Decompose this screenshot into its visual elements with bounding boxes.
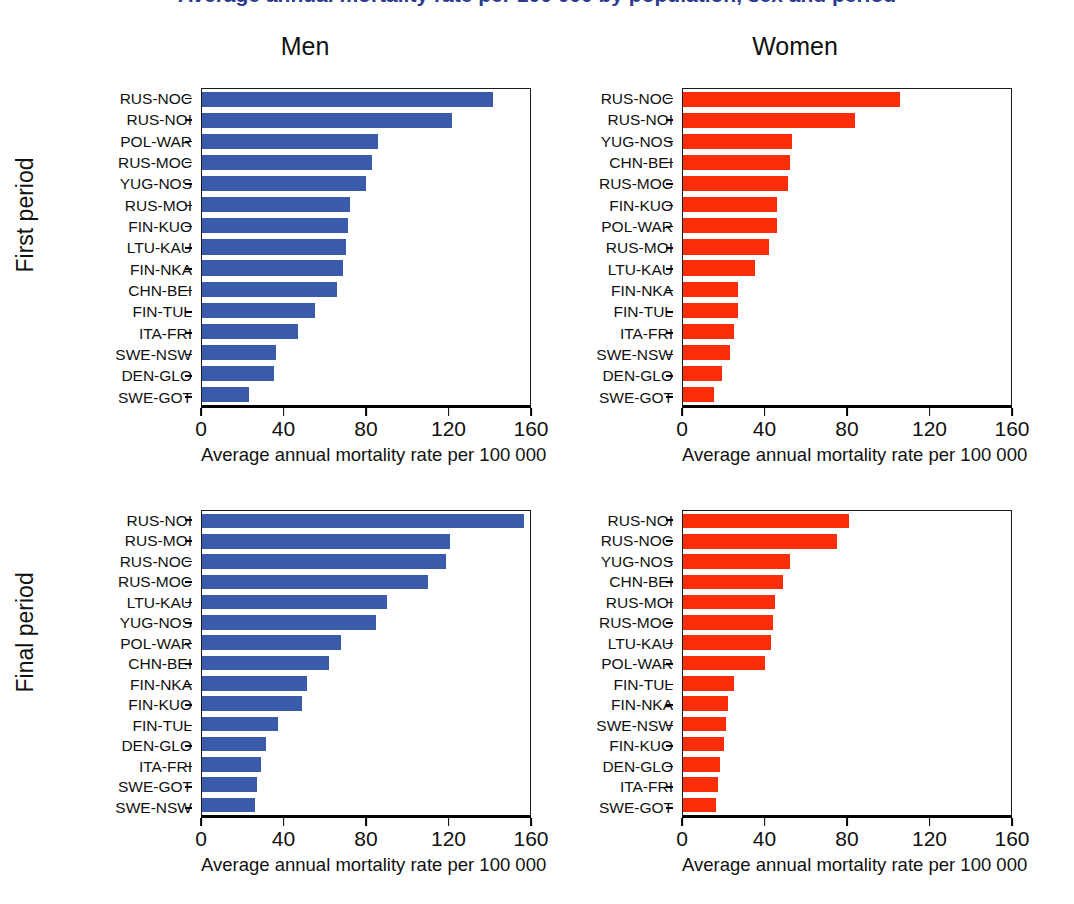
bar-row — [202, 194, 530, 215]
bars-men-first — [202, 89, 530, 405]
bar — [683, 239, 769, 254]
bar — [202, 134, 378, 149]
bar — [683, 218, 777, 233]
bar-row — [683, 363, 1011, 384]
bar — [202, 635, 341, 650]
bar-row — [683, 215, 1011, 236]
category-label: FIN-TUL — [115, 715, 192, 736]
x-axis-tick — [530, 408, 532, 416]
x-axis-tick-label: 120 — [912, 827, 947, 851]
bar — [202, 155, 372, 170]
bar-row — [202, 612, 530, 632]
category-label: LTU-KAU — [596, 259, 673, 280]
bars-men-final — [202, 511, 530, 815]
bar — [202, 324, 298, 339]
x-axis-tick-label: 0 — [195, 417, 207, 441]
plot-area-men-first: RUS-NOCRUS-NOIPOL-WARRUS-MOCYUG-NOSRUS-M… — [201, 88, 531, 408]
category-label: RUS-NOI — [596, 109, 673, 130]
bar — [202, 113, 452, 128]
bar-row — [202, 714, 530, 734]
x-axis-tick-label: 40 — [753, 827, 776, 851]
x-axis-tick-label: 80 — [835, 417, 858, 441]
x-axis-tick-label: 40 — [272, 417, 295, 441]
category-label: LTU-KAU — [115, 237, 192, 258]
bar-row — [202, 795, 530, 815]
bar — [683, 113, 855, 128]
x-axis-tick-label: 80 — [354, 827, 377, 851]
row-label-first-period: First period — [10, 244, 40, 271]
bar — [683, 303, 738, 318]
bar-row — [683, 592, 1011, 612]
category-label: LTU-KAU — [115, 592, 192, 613]
category-label: SWE-GOT — [596, 387, 673, 408]
bar-row — [202, 89, 530, 110]
bar — [202, 366, 274, 381]
bar — [202, 656, 329, 671]
bar — [202, 534, 450, 549]
bar — [683, 134, 792, 149]
category-label: FIN-NKA — [115, 674, 192, 695]
bar-row — [202, 693, 530, 713]
bar — [683, 737, 724, 752]
x-axis-tick-label: 40 — [272, 827, 295, 851]
bar — [683, 345, 730, 360]
bar — [683, 777, 718, 792]
category-label: DEN-GLO — [596, 365, 673, 386]
bar — [683, 282, 738, 297]
category-label: RUS-MOC — [115, 572, 192, 593]
x-axis-title-women-final: Average annual mortality rate per 100 00… — [682, 854, 1012, 876]
bar-row — [683, 714, 1011, 734]
x-axis-tick — [929, 408, 931, 416]
bar-row — [202, 572, 530, 592]
category-label: ITA-FRI — [115, 756, 192, 777]
x-axis-tick-label: 160 — [513, 827, 548, 851]
bar — [202, 676, 307, 691]
figure-panel-grid: First period Final period Men RUS-NOCRUS… — [0, 14, 1074, 904]
x-axis-tick — [365, 818, 367, 826]
x-axis-tick — [764, 408, 766, 416]
bar — [683, 798, 716, 813]
bar-row — [202, 653, 530, 673]
category-label: RUS-MOI — [115, 195, 192, 216]
category-label: SWE-NSW — [596, 715, 673, 736]
bar — [683, 324, 734, 339]
category-label: CHN-BEI — [596, 152, 673, 173]
category-label: POL-WAR — [596, 654, 673, 675]
bar — [202, 554, 446, 569]
x-axis-tick-label: 80 — [354, 417, 377, 441]
category-label: YUG-NOS — [115, 173, 192, 194]
x-axis-tick — [448, 408, 450, 416]
bar — [683, 387, 714, 402]
bar-row — [683, 300, 1011, 321]
bar-row — [683, 258, 1011, 279]
bars-women-first — [683, 89, 1011, 405]
bar — [683, 92, 900, 107]
bar — [683, 656, 765, 671]
bar — [202, 239, 346, 254]
bar — [202, 387, 249, 402]
bar-row — [202, 342, 530, 363]
bar — [202, 282, 337, 297]
bar — [202, 260, 343, 275]
bar — [683, 635, 771, 650]
category-label: FIN-TUL — [115, 301, 192, 322]
bar-row — [202, 110, 530, 131]
category-label: CHN-BEI — [596, 572, 673, 593]
bar-row — [683, 734, 1011, 754]
plot-box-men-final — [201, 510, 531, 818]
category-label: RUS-NOI — [115, 109, 192, 130]
x-axis-tick — [764, 818, 766, 826]
plot-area-women-first: RUS-NOCRUS-NOIYUG-NOSCHN-BEIRUS-MOCFIN-K… — [682, 88, 1012, 408]
bar-row — [202, 300, 530, 321]
category-label: SWE-NSW — [596, 344, 673, 365]
category-label: FIN-NKA — [115, 259, 192, 280]
category-labels-men-first: RUS-NOCRUS-NOIPOL-WARRUS-MOCYUG-NOSRUS-M… — [115, 88, 201, 408]
x-axis-tick — [283, 818, 285, 826]
bar-row — [683, 693, 1011, 713]
bar-row — [683, 173, 1011, 194]
bar — [202, 615, 376, 630]
bar-row — [202, 258, 530, 279]
x-axis-men-final: Average annual mortality rate per 100 00… — [201, 818, 531, 878]
category-label: SWE-GOT — [596, 797, 673, 818]
bars-women-final — [683, 511, 1011, 815]
